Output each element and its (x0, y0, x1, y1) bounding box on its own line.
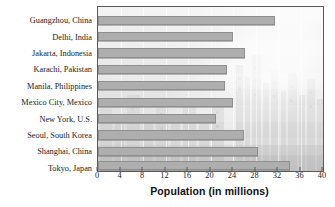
y-axis-label-4: Manila, Philippines (0, 81, 92, 90)
y-axis-label-5: Mexico City, Mexico (0, 98, 92, 107)
bar-delhi-india (98, 32, 233, 41)
bar-guangzhou-china (98, 16, 275, 25)
bar-shanghai-china (98, 147, 258, 156)
x-tick-label-8: 32 (273, 171, 281, 181)
plot-area (97, 6, 324, 172)
bar-jakarta-indonesia (98, 48, 245, 57)
y-axis-label-1: Delhi, India (0, 32, 92, 41)
x-tick-label-9: 36 (295, 171, 303, 181)
x-tick-label-2: 8 (140, 171, 144, 181)
y-axis-label-8: Shanghai, China (0, 147, 92, 156)
bar-new-york-us (98, 114, 216, 123)
y-axis-label-0: Guangzhou, China (0, 16, 92, 25)
x-axis-title: Population (in millions) (97, 185, 322, 198)
x-tick-label-3: 12 (160, 171, 168, 181)
bar-mexico-city-mexico (98, 98, 233, 107)
x-tick-label-4: 16 (183, 171, 191, 181)
bar-series (98, 7, 323, 171)
y-axis-label-6: New York, U.S. (0, 114, 92, 123)
y-axis-label-7: Seoul, South Korea (0, 131, 92, 140)
bar-seoul-south-korea (98, 130, 244, 139)
y-axis-label-9: Tokyo, Japan (0, 163, 92, 172)
y-axis-label-3: Karachi, Pakistan (0, 65, 92, 74)
bar-tokyo-japan (98, 161, 290, 170)
y-axis-category-labels: Guangzhou, China Delhi, India Jakarta, I… (0, 6, 95, 170)
x-tick-label-0: 0 (95, 171, 99, 181)
x-tick-label-6: 24 (228, 171, 236, 181)
bar-manila-philippines (98, 81, 225, 90)
x-axis-ticks: 0 4 8 12 16 20 24 28 32 36 40 (97, 171, 322, 183)
x-tick-label-10: 40 (318, 171, 326, 181)
y-axis-label-2: Jakarta, Indonesia (0, 49, 92, 58)
x-tick-label-1: 4 (117, 171, 121, 181)
x-tick-label-5: 20 (205, 171, 213, 181)
population-bar-chart: Guangzhou, China Delhi, India Jakarta, I… (0, 0, 335, 207)
x-tick-label-7: 28 (250, 171, 258, 181)
bar-karachi-pakistan (98, 65, 227, 74)
